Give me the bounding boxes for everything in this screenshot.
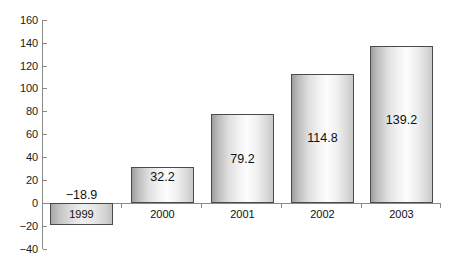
y-tick-mark-100 xyxy=(43,88,47,89)
x-tick-mark-1 xyxy=(201,204,202,208)
y-tick-label-80: 80 xyxy=(2,105,38,117)
value-label-2003: 139.2 xyxy=(370,113,433,127)
y-tick-label-neg40: −40 xyxy=(2,243,38,255)
bar-chart: 160 140 120 100 80 60 40 20 0 −20 −40 −1… xyxy=(0,0,458,270)
y-tick-mark-120 xyxy=(43,66,47,67)
value-label-2001: 79.2 xyxy=(211,152,274,166)
y-tick-label-160: 160 xyxy=(2,14,38,26)
y-tick-label-140: 140 xyxy=(2,37,38,49)
y-tick-label-neg20: −20 xyxy=(2,220,38,232)
y-tick-mark-80 xyxy=(43,111,47,112)
y-tick-label-20: 20 xyxy=(2,174,38,186)
y-tick-label-40: 40 xyxy=(2,151,38,163)
x-tick-mark-2 xyxy=(281,204,282,208)
y-tick-mark-neg40 xyxy=(43,249,47,250)
y-tick-mark-40 xyxy=(43,157,47,158)
y-tick-mark-neg20 xyxy=(43,226,47,227)
y-tick-mark-60 xyxy=(43,134,47,135)
y-tick-mark-140 xyxy=(43,43,47,44)
x-tick-mark-0 xyxy=(121,204,122,208)
y-tick-label-120: 120 xyxy=(2,60,38,72)
category-label-2002: 2002 xyxy=(291,208,354,220)
y-tick-label-60: 60 xyxy=(2,128,38,140)
category-label-2003: 2003 xyxy=(370,208,433,220)
y-tick-label-100: 100 xyxy=(2,82,38,94)
category-label-1999: 1999 xyxy=(50,208,113,220)
y-tick-label-0: 0 xyxy=(2,197,38,209)
value-label-2000: 32.2 xyxy=(131,170,194,184)
value-label-2002: 114.8 xyxy=(291,131,354,145)
y-tick-mark-20 xyxy=(43,180,47,181)
x-tick-mark-4 xyxy=(440,204,441,208)
x-tick-mark-3 xyxy=(361,204,362,208)
category-label-2000: 2000 xyxy=(131,208,194,220)
value-label-1999: −18.9 xyxy=(50,188,113,202)
y-tick-mark-160 xyxy=(43,20,47,21)
category-label-2001: 2001 xyxy=(211,208,274,220)
